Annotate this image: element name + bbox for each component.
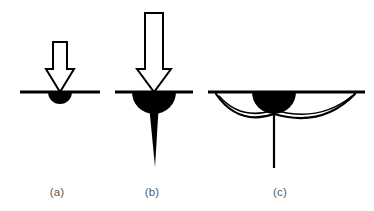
indentation-figure: (a) (b) (c) [0, 0, 374, 211]
panel-caption-c: (c) [273, 186, 287, 198]
figure-container: (a) (b) (c) [0, 0, 374, 211]
figure-background [0, 0, 374, 211]
panel-caption-b: (b) [145, 186, 160, 198]
panel-caption-a: (a) [50, 186, 65, 198]
